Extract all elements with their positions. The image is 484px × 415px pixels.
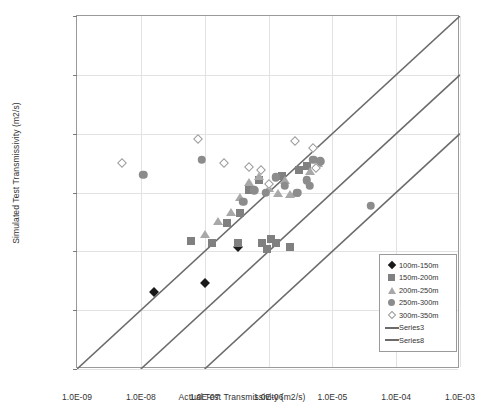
data-point-250m-300m: [239, 197, 248, 206]
legend-item-label: 100m-150m: [399, 261, 438, 270]
data-point-250m-300m: [281, 182, 290, 191]
data-point-250m-300m: [293, 188, 302, 197]
data-point-200m-250m: [226, 208, 236, 216]
data-point-150m-200m: [295, 166, 303, 174]
chart-legend: 100m-150m150m-200m200m-250m250m-300m300m…: [379, 254, 457, 352]
data-point-250m-300m: [261, 188, 270, 197]
diamond-icon: [384, 262, 399, 268]
legend-item[interactable]: 100m-150m: [384, 259, 453, 272]
data-point-250m-300m: [272, 173, 281, 182]
data-point-150m-200m: [236, 209, 244, 217]
legend-item-label: Series3: [399, 323, 424, 332]
data-point-150m-200m: [187, 237, 195, 245]
chart-container: Simulated Test Transmissivity (m2/s) Act…: [0, 0, 484, 415]
x-axis-tick-label: 1.0E-05: [317, 392, 347, 402]
legend-item[interactable]: 300m-350m: [384, 309, 453, 322]
legend-item[interactable]: 200m-250m: [384, 284, 453, 297]
legend-item[interactable]: 150m-200m: [384, 272, 453, 285]
legend-item-label: 200m-250m: [399, 286, 438, 295]
data-point-200m-250m: [213, 217, 223, 225]
data-point-200m-250m: [200, 230, 210, 238]
circle-icon: [384, 299, 399, 306]
x-axis-tick-label: 1.0E-09: [62, 392, 92, 402]
y-axis-title: Simulated Test Transmissivity (m2/s): [11, 53, 21, 293]
x-axis-tick-label: 1.0E-03: [445, 392, 475, 402]
x-axis-tick-label: 1.0E-07: [190, 392, 220, 402]
data-point-250m-300m: [250, 186, 259, 195]
data-point-150m-200m: [223, 219, 231, 227]
legend-item-label: Series8: [399, 336, 424, 345]
square-icon: [384, 274, 399, 281]
data-point-250m-300m: [139, 171, 148, 180]
legend-item[interactable]: 250m-300m: [384, 297, 453, 310]
open-diamond-icon: [384, 312, 399, 318]
gridline-vertical: [460, 16, 461, 367]
data-point-150m-200m: [208, 239, 216, 247]
line-icon: [384, 339, 399, 341]
legend-item-label: 300m-350m: [399, 311, 438, 320]
x-axis-tick-label: 1.0E-04: [381, 392, 411, 402]
legend-item[interactable]: Series8: [384, 334, 453, 347]
data-point-250m-300m: [197, 156, 206, 165]
data-point-250m-300m: [305, 182, 314, 191]
x-axis-tick-label: 1.0E-08: [126, 392, 156, 402]
data-point-150m-200m: [272, 239, 280, 247]
data-point-150m-200m: [286, 243, 294, 251]
line-icon: [384, 327, 399, 329]
triangle-icon: [384, 287, 399, 294]
legend-item[interactable]: Series3: [384, 322, 453, 335]
x-axis-tick-label: 1.0E-06: [254, 392, 284, 402]
data-point-150m-200m: [263, 245, 271, 253]
legend-item-label: 250m-300m: [399, 298, 438, 307]
y-axis-tick-mark: [73, 369, 77, 370]
data-point-150m-200m: [234, 239, 242, 247]
data-point-250m-300m: [367, 201, 376, 210]
legend-item-label: 150m-200m: [399, 273, 438, 282]
gridline-horizontal: [77, 369, 458, 370]
